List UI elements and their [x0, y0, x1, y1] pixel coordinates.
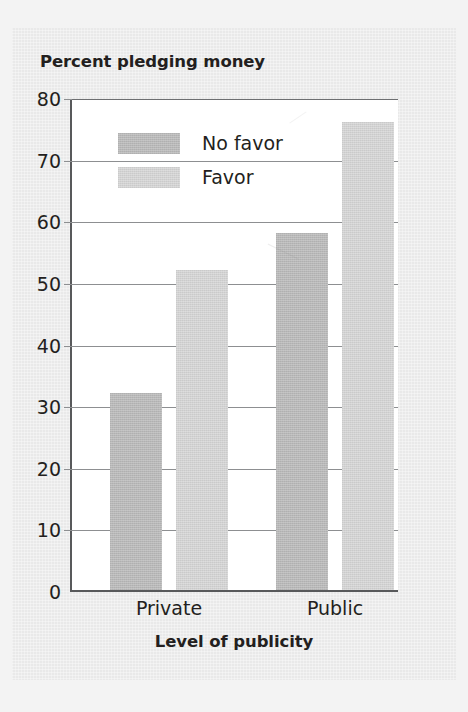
ytick-label-0: 0 [49, 583, 61, 602]
figure-panel: Percent pledging money 80 70 60 50 40 [12, 28, 456, 680]
bar-public-no-favor [276, 233, 328, 590]
scan-smudge-2 [289, 112, 306, 124]
chart-legend: No favor Favor [118, 126, 283, 194]
gridline-0: 0 [72, 592, 398, 593]
ytick-label-80: 80 [37, 90, 61, 109]
legend-label-favor: Favor [202, 168, 254, 187]
ytick-label-70: 70 [37, 151, 61, 170]
ytick-label-50: 50 [37, 274, 61, 293]
ytick-label-40: 40 [37, 336, 61, 355]
scanned-page: Percent pledging money 80 70 60 50 40 [0, 0, 468, 712]
tick-30 [64, 407, 72, 408]
tick-80 [64, 99, 72, 100]
ytick-label-60: 60 [37, 213, 61, 232]
favor-swatch-icon [118, 167, 180, 188]
tick-70 [64, 161, 72, 162]
chart-title: Percent pledging money [40, 52, 265, 71]
gridline-80: 80 [72, 99, 398, 100]
legend-item-favor: Favor [118, 160, 283, 194]
plot-area: 80 70 60 50 40 30 [70, 99, 398, 592]
bar-private-favor [176, 270, 228, 591]
ytick-label-20: 20 [37, 459, 61, 478]
tick-50 [64, 284, 72, 285]
legend-item-no-favor: No favor [118, 126, 283, 160]
tick-20 [64, 469, 72, 470]
xtick-label-public: Public [307, 599, 363, 618]
nofavor-swatch-icon [118, 133, 180, 154]
ytick-label-10: 10 [37, 521, 61, 540]
tick-60 [64, 222, 72, 223]
ytick-label-30: 30 [37, 398, 61, 417]
x-axis-title: Level of publicity [12, 632, 456, 651]
bar-private-no-favor [110, 393, 162, 590]
tick-40 [64, 346, 72, 347]
tick-10 [64, 530, 72, 531]
legend-label-no-favor: No favor [202, 134, 283, 153]
xtick-label-private: Private [136, 599, 202, 618]
bar-public-favor [342, 122, 394, 590]
